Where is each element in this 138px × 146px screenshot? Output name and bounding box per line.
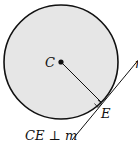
center-label: C (45, 55, 55, 70)
geometry-diagram: C E m CE ⊥ m (0, 0, 138, 146)
diagram-canvas: C E m CE ⊥ m (0, 0, 138, 146)
perpendicular-caption: CE ⊥ m (25, 128, 77, 143)
line-m-label: m (135, 56, 138, 71)
point-e-label: E (100, 106, 111, 121)
center-point (58, 59, 63, 64)
